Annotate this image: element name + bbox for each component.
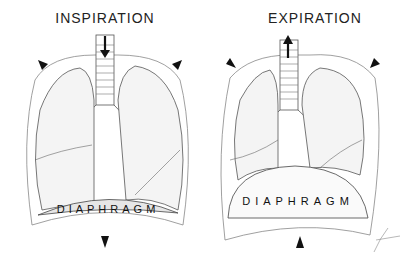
diaphragm-label: DIAPHRAGM (242, 195, 354, 207)
right-lung (118, 66, 183, 210)
artist-signature (374, 228, 400, 252)
inspiration-diagram: DIAPHRAGM (0, 0, 210, 269)
right-lung (302, 68, 364, 175)
inspiration-panel: INSPIRATION DIAPHRAGM (0, 0, 210, 269)
left-lung (234, 70, 278, 180)
diaphragm-up-arrow-icon (296, 236, 304, 248)
chest-arrow-left-icon (226, 58, 236, 68)
chest-arrow-right-icon (172, 60, 182, 70)
diaphragm-down-arrow-icon (101, 236, 109, 248)
expiration-diagram: DIAPHRAGM (210, 0, 420, 269)
chest-arrow-left-icon (38, 60, 48, 70)
expiration-panel: EXPIRATION DIAPHRAGM (210, 0, 420, 269)
chest-arrow-right-icon (370, 58, 380, 68)
left-lung (35, 68, 94, 210)
diaphragm-label: DIAPHRAGM (57, 203, 160, 215)
